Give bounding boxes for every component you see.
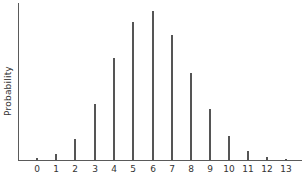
x-tick-10: 10 [219,164,239,174]
bar-6 [152,11,154,160]
bar-3 [94,104,96,160]
x-tick-1: 1 [46,164,66,174]
x-tick-4: 4 [104,164,124,174]
x-tick-0: 0 [27,164,47,174]
y-axis-label: Probability [3,56,13,126]
x-tick-7: 7 [162,164,182,174]
x-axis [18,160,302,161]
x-tick-5: 5 [123,164,143,174]
x-tick-9: 9 [200,164,220,174]
bar-7 [171,35,173,160]
bar-12 [266,157,268,160]
x-tick-2: 2 [65,164,85,174]
bar-1 [55,154,57,160]
bar-8 [190,73,192,160]
bar-4 [113,58,115,160]
bar-2 [74,139,76,160]
x-tick-13: 13 [276,164,296,174]
bar-0 [36,158,38,160]
x-tick-11: 11 [238,164,258,174]
y-axis [18,3,19,161]
bar-5 [132,22,134,160]
probability-chart: Probability 012345678910111213 [0,0,305,177]
bar-10 [228,136,230,160]
bar-9 [209,109,211,160]
x-tick-3: 3 [85,164,105,174]
x-tick-6: 6 [143,164,163,174]
bar-11 [247,151,249,160]
x-tick-12: 12 [257,164,277,174]
bar-13 [285,159,287,160]
x-tick-8: 8 [181,164,201,174]
